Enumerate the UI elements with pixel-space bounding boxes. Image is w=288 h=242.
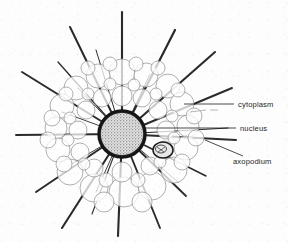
vacuole <box>112 86 132 106</box>
food-vacuole <box>153 142 173 158</box>
vacuole <box>128 79 140 91</box>
vacuole <box>62 134 74 146</box>
vacuole <box>103 57 117 71</box>
vacuole <box>150 88 162 100</box>
vacuole <box>81 61 95 75</box>
vacuole <box>188 130 204 146</box>
nucleus <box>99 111 145 157</box>
vacuole <box>78 158 90 170</box>
vacuole <box>44 110 60 126</box>
label-cytoplasm: cytoplasm <box>238 100 274 109</box>
vacuole <box>171 83 185 97</box>
vacuole <box>99 173 113 187</box>
label-nucleus: nucleus <box>240 124 267 133</box>
label-axopodium: axopodium <box>233 157 272 166</box>
vacuole <box>82 88 94 100</box>
leader-line-axopodium <box>205 140 243 156</box>
vacuole <box>59 87 73 101</box>
vacuole <box>64 112 76 124</box>
vacuole <box>132 192 152 212</box>
heliozoan-diagram: cytoplasm nucleus axopodium <box>0 0 288 242</box>
figure-canvas: cytoplasm nucleus axopodium <box>0 0 288 242</box>
vacuole <box>174 154 190 170</box>
vacuole <box>40 132 56 148</box>
vacuole <box>151 61 165 75</box>
vacuole <box>93 89 111 107</box>
vacuole <box>112 162 132 182</box>
vacuole <box>129 57 143 71</box>
vacuole <box>131 173 145 187</box>
vacuole <box>149 101 167 119</box>
vacuole <box>77 101 95 119</box>
vacuole <box>166 110 178 122</box>
vacuole <box>186 108 202 124</box>
vacuole <box>56 156 72 172</box>
vacuole <box>94 192 114 212</box>
vacuole <box>104 78 116 90</box>
vacuole <box>168 132 180 144</box>
vacuole <box>133 89 151 107</box>
